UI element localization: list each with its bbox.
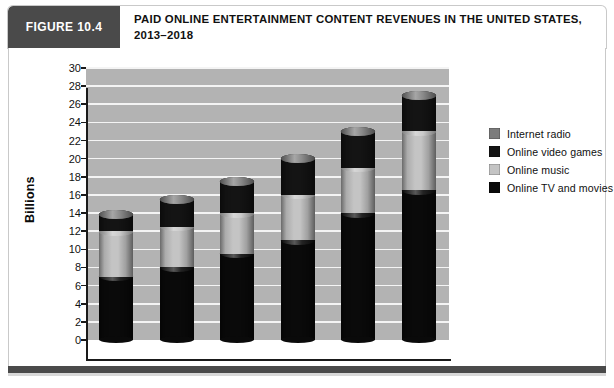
y-tick-mark <box>81 321 86 323</box>
figure-number-badge: FIGURE 10.4 <box>8 6 120 48</box>
footer-shadow <box>8 373 606 376</box>
figure-page: FIGURE 10.4 PAID ONLINE ENTERTAINMENT CO… <box>0 0 614 388</box>
bar-top-cap-shading <box>160 195 194 204</box>
y-tick-label: 14 <box>69 207 81 219</box>
legend-swatch <box>489 146 500 157</box>
bar-segment-online-video-games <box>341 131 375 167</box>
bar-base <box>402 336 436 343</box>
legend-swatch <box>489 182 500 193</box>
bar-2013[interactable] <box>99 68 133 340</box>
bar-segment-online-tv-and-movies <box>281 240 315 340</box>
gridline <box>86 103 449 105</box>
bar-top-cap-shading <box>402 91 436 100</box>
bar-base <box>341 336 375 343</box>
y-tick-label: 16 <box>69 189 81 201</box>
plot-background <box>86 68 449 340</box>
y-tick-label: 30 <box>69 62 81 74</box>
gridline <box>86 285 449 287</box>
bar-segment-online-music <box>160 227 194 268</box>
y-tick-mark <box>81 285 86 287</box>
bar-segment-online-tv-and-movies <box>220 254 254 340</box>
y-tick-mark <box>81 103 86 105</box>
gridline <box>86 176 449 178</box>
y-tick-mark <box>81 303 86 305</box>
bar-segment-online-music <box>281 195 315 240</box>
gridline <box>86 249 449 251</box>
figure-title-line-2: 2013–2018 <box>134 27 596 43</box>
y-tick-mark <box>81 212 86 214</box>
bar-2015[interactable] <box>220 68 254 340</box>
legend-label: Online video games <box>507 146 602 158</box>
x-axis-line <box>86 359 451 361</box>
y-tick-label: 18 <box>69 171 81 183</box>
bar-segment-online-tv-and-movies <box>402 190 436 340</box>
bar-segment-online-music <box>99 231 133 276</box>
bar-base <box>220 336 254 343</box>
gridline <box>86 321 449 323</box>
bar-segment-online-music <box>402 131 436 190</box>
legend-item-internet-radio[interactable]: Internet radio <box>489 126 613 142</box>
legend-swatch <box>489 164 500 175</box>
legend-item-online-music[interactable]: Online music <box>489 162 613 178</box>
bar-segment-online-tv-and-movies <box>341 213 375 340</box>
legend-label: Internet radio <box>507 128 571 140</box>
figure-title: PAID ONLINE ENTERTAINMENT CONTENT REVENU… <box>120 6 606 48</box>
bar-segment-online-music <box>220 213 254 254</box>
y-axis-line <box>86 88 88 360</box>
y-tick-label: 24 <box>69 116 81 128</box>
gridline <box>86 67 449 69</box>
figure-title-line-1: PAID ONLINE ENTERTAINMENT CONTENT REVENU… <box>134 11 596 27</box>
gridline <box>86 140 449 142</box>
legend-item-online-video-games[interactable]: Online video games <box>489 144 613 160</box>
y-tick-label: 26 <box>69 98 81 110</box>
bar-segment-online-tv-and-movies <box>160 267 194 340</box>
y-tick-label: 22 <box>69 135 81 147</box>
gridline <box>86 212 449 214</box>
bar-base <box>160 336 194 343</box>
y-tick-mark <box>81 85 86 87</box>
gridline <box>86 303 449 305</box>
bar-segment-online-tv-and-movies <box>99 277 133 340</box>
y-tick-mark <box>81 194 86 196</box>
y-tick-mark <box>81 249 86 251</box>
bar-2018[interactable] <box>402 68 436 340</box>
gridline <box>86 267 449 269</box>
y-tick-label: 10 <box>69 243 81 255</box>
y-tick-label: 28 <box>69 80 81 92</box>
gridline <box>86 230 449 232</box>
bar-base <box>99 336 133 343</box>
bar-base <box>281 336 315 343</box>
y-axis-ticks: 302826242220181614121086420 <box>52 68 81 340</box>
bar-2016[interactable] <box>281 68 315 340</box>
gridline <box>86 122 449 124</box>
bar-2014[interactable] <box>160 68 194 340</box>
gridline <box>86 158 449 160</box>
gridline <box>86 85 449 87</box>
legend-label: Online TV and movies <box>507 182 613 194</box>
y-axis-label: Billions <box>23 176 37 223</box>
bar-2017[interactable] <box>341 68 375 340</box>
y-tick-mark <box>81 122 86 124</box>
plot-area: 201320142015201620172018 <box>86 68 449 341</box>
y-tick-label: 20 <box>69 153 81 165</box>
bar-segment-online-video-games <box>281 159 315 195</box>
bar-top-cap-shading <box>220 177 254 186</box>
y-tick-mark <box>81 176 86 178</box>
footer-rule <box>8 366 606 373</box>
y-tick-mark <box>81 158 86 160</box>
legend-item-online-tv-and-movies[interactable]: Online TV and movies <box>489 180 613 196</box>
y-tick-mark <box>81 339 86 341</box>
bar-segment-online-video-games <box>220 181 254 213</box>
bar-segment-online-music <box>341 168 375 213</box>
y-tick-label: 12 <box>69 225 81 237</box>
bar-top-cap-shading <box>341 127 375 136</box>
legend-label: Online music <box>507 164 569 176</box>
chart-legend: Internet radioOnline video gamesOnline m… <box>489 126 613 198</box>
gridline <box>86 194 449 196</box>
y-tick-mark <box>81 267 86 269</box>
legend-swatch <box>489 128 500 139</box>
chart-frame: Billions 302826242220181614121086420 201… <box>8 48 606 370</box>
bar-segment-online-video-games <box>402 95 436 131</box>
y-tick-mark <box>81 67 86 69</box>
y-tick-mark <box>81 230 86 232</box>
